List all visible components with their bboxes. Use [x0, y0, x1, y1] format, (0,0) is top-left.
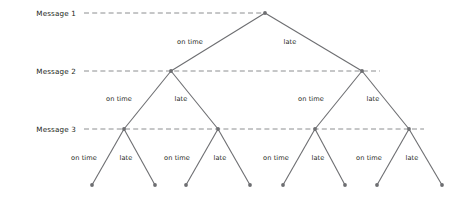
tree-node-leaf2[interactable]	[153, 183, 157, 187]
edge-label-e-n22-leaf8: late	[406, 154, 419, 162]
edge-label-e-n21-leaf5: on time	[263, 154, 289, 162]
diagram-canvas: Message 1Message 2Message 3 on timelateo…	[0, 0, 460, 198]
tree-edge-e-n0-n2	[265, 13, 362, 71]
tree-node-leaf8[interactable]	[440, 183, 444, 187]
tree-node-n2[interactable]	[360, 69, 364, 73]
edge-label-e-n1-n11: on time	[106, 95, 132, 103]
edge-label-e-n12-leaf3: on time	[164, 154, 190, 162]
edge-label-e-n2-n21: on time	[298, 95, 324, 103]
level-label-message-1: Message 1	[36, 9, 76, 18]
edge-label-e-n2-n22: late	[367, 95, 380, 103]
edge-label-e-n11-leaf1: on time	[71, 154, 97, 162]
tree-node-n12[interactable]	[216, 127, 220, 131]
level-label-message-3: Message 3	[36, 125, 76, 134]
edge-label-e-n12-leaf4: late	[214, 154, 227, 162]
edge-label-e-n22-leaf7: on time	[356, 154, 382, 162]
tree-node-leaf5[interactable]	[281, 183, 285, 187]
edge-label-e-n0-n2: late	[284, 38, 297, 46]
tree-node-n0[interactable]	[263, 11, 267, 15]
level-label-message-2: Message 2	[36, 67, 76, 76]
tree-node-leaf7[interactable]	[375, 183, 379, 187]
level-guide-lines	[84, 13, 424, 129]
tree-graphics	[0, 0, 460, 198]
edge-label-e-n21-leaf6: late	[312, 154, 325, 162]
tree-node-n1[interactable]	[169, 69, 173, 73]
tree-node-n21[interactable]	[313, 127, 317, 131]
tree-node-leaf4[interactable]	[248, 183, 252, 187]
tree-node-n11[interactable]	[122, 127, 126, 131]
tree-node-leaf3[interactable]	[184, 183, 188, 187]
edge-label-e-n1-n12: late	[175, 95, 188, 103]
tree-node-n22[interactable]	[407, 127, 411, 131]
tree-node-leaf1[interactable]	[90, 183, 94, 187]
edge-label-e-n0-n1: on time	[177, 38, 203, 46]
edge-label-e-n11-leaf2: late	[120, 154, 133, 162]
tree-node-leaf6[interactable]	[343, 183, 347, 187]
